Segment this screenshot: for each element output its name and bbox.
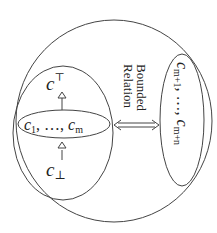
- relation-label: Bounded Relation: [121, 64, 149, 111]
- diagram-canvas: c⊤ c⊥ c1, …, cm Bounded Relation cm+1, ……: [0, 0, 217, 233]
- arrow-up-icon: [58, 92, 66, 98]
- svg-text:Relation: Relation: [121, 64, 136, 109]
- outer-concepts-label: cm+1, …, cm+n: [172, 62, 191, 145]
- inner-concepts-label: c1, …, cm: [24, 116, 83, 135]
- arrow-up-icon: [58, 142, 66, 148]
- bounded-relation-arrow: [114, 120, 159, 130]
- top-concept-label: c⊤: [46, 71, 65, 94]
- bottom-concept-label: c⊥: [46, 159, 66, 182]
- svg-text:cm+1, …, cm+n: cm+1, …, cm+n: [172, 62, 191, 145]
